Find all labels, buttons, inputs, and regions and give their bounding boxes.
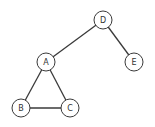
nodes-layer: DAEBC: [12, 11, 143, 117]
node-d: D: [94, 11, 112, 29]
node-c: C: [61, 99, 79, 117]
node-label: C: [67, 104, 73, 113]
node-a: A: [37, 53, 55, 71]
edge-d-a: [46, 20, 103, 62]
node-label: E: [131, 58, 136, 67]
node-label: D: [100, 16, 106, 25]
node-label: B: [18, 104, 24, 113]
node-e: E: [125, 53, 143, 71]
node-label: A: [43, 58, 49, 67]
node-b: B: [12, 99, 30, 117]
graph-svg: DAEBC: [0, 0, 155, 127]
graph-diagram: DAEBC: [0, 0, 155, 127]
